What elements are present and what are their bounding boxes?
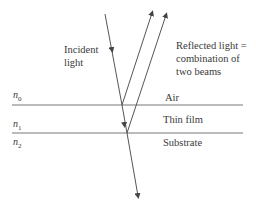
incident-light-label: Incident light bbox=[64, 43, 98, 69]
incident-label-line2: light bbox=[64, 56, 98, 69]
reflected-light-label: Reflected light = combination of two bea… bbox=[176, 39, 247, 78]
air-label: Air bbox=[165, 91, 179, 104]
substrate-label: Substrate bbox=[163, 136, 202, 149]
reflected-ray-1 bbox=[122, 13, 152, 105]
index-n2: n2 bbox=[13, 136, 22, 150]
index-n1: n1 bbox=[13, 118, 22, 132]
transmitted-ray bbox=[127, 133, 138, 196]
reflected-label-line1: Reflected light = bbox=[176, 39, 247, 52]
reflected-label-line3: two beams bbox=[176, 65, 247, 78]
incident-ray bbox=[105, 14, 122, 105]
refracted-ray bbox=[122, 105, 127, 133]
thin-film-label: Thin film bbox=[163, 113, 203, 126]
reflected-label-line2: combination of bbox=[176, 52, 247, 65]
index-n0: n0 bbox=[13, 89, 22, 103]
thin-film-diagram bbox=[0, 0, 256, 207]
reflected-ray-2 bbox=[127, 15, 166, 133]
incident-label-line1: Incident bbox=[64, 43, 98, 56]
